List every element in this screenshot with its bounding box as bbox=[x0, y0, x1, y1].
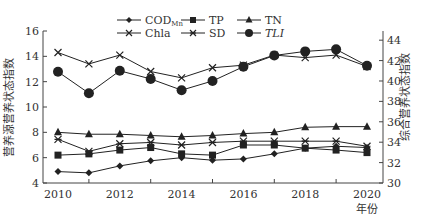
x-tick-label: 2016 bbox=[229, 188, 257, 201]
series-tp bbox=[55, 142, 371, 159]
legend-item-tp: TP bbox=[181, 14, 224, 27]
right-tick-label: 32 bbox=[387, 157, 401, 170]
legend-item-sd: SD bbox=[181, 27, 226, 40]
legend-item-chla: Chla bbox=[117, 27, 171, 40]
left-tick-label: 10 bbox=[25, 101, 39, 114]
trophic-index-chart: 4681012141630323436384042442010201220142… bbox=[0, 0, 422, 218]
legend-item-cod-mn: CODMn bbox=[117, 14, 183, 28]
left-tick-label: 6 bbox=[32, 152, 39, 165]
axes: 4681012141630323436384042442010201220142… bbox=[2, 25, 412, 216]
legend-label: TP bbox=[209, 14, 224, 27]
legend-label: CODMn bbox=[145, 14, 183, 28]
legend-label: Chla bbox=[145, 27, 171, 40]
left-tick-label: 16 bbox=[25, 25, 39, 38]
x-tick-label: 2018 bbox=[291, 188, 319, 201]
series-tli bbox=[53, 44, 372, 98]
right-axis-title: 综合营养状态指数 bbox=[398, 53, 412, 141]
legend-label: TLI bbox=[265, 27, 285, 40]
right-tick-label: 44 bbox=[387, 34, 401, 47]
left-tick-label: 12 bbox=[25, 76, 39, 89]
legend-item-tn: TN bbox=[237, 14, 282, 27]
legend: CODMnTPTNChlaSDTLI bbox=[117, 14, 285, 40]
left-tick-label: 8 bbox=[32, 126, 39, 139]
series-group bbox=[53, 44, 372, 176]
left-tick-label: 4 bbox=[32, 177, 39, 190]
x-tick-label: 2010 bbox=[44, 188, 72, 201]
right-tick-label: 30 bbox=[387, 177, 401, 190]
left-tick-label: 14 bbox=[25, 50, 39, 63]
x-tick-label: 2014 bbox=[168, 188, 196, 201]
legend-item-tli: TLI bbox=[237, 27, 285, 40]
x-tick-label: 2020 bbox=[353, 188, 381, 201]
legend-label: SD bbox=[209, 27, 226, 40]
x-axis-label: 年份 bbox=[356, 202, 378, 216]
series-tn bbox=[54, 122, 371, 140]
x-tick-label: 2012 bbox=[106, 188, 134, 201]
legend-label: TN bbox=[265, 14, 282, 27]
left-axis-title: 营养源营养状态指数 bbox=[2, 58, 16, 157]
